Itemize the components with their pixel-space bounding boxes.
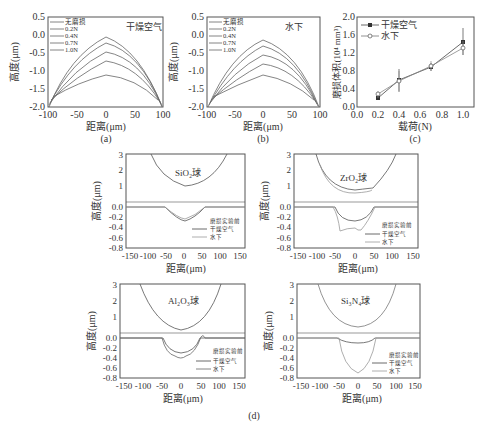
- svg-text:1.0N: 1.0N: [223, 46, 236, 53]
- svg-text:100: 100: [156, 109, 171, 120]
- svg-text:-0.6: -0.6: [103, 363, 118, 373]
- profile-curves: [294, 154, 418, 231]
- panel-b: 0.5 0.0 -0.5 -1.0 -1.5 -2.0 -100 -50 0 5…: [167, 11, 328, 145]
- svg-text:0.0: 0.0: [283, 333, 295, 343]
- x-axis-label: 距离(μm): [166, 262, 206, 275]
- legend: 干燥空气 水下: [361, 19, 417, 41]
- svg-text:干燥空气: 干燥空气: [210, 225, 234, 233]
- svg-text:2: 2: [290, 296, 295, 306]
- svg-text:-50: -50: [333, 381, 345, 391]
- svg-text:0.7N: 0.7N: [65, 39, 78, 46]
- svg-text:磨损实验前: 磨损实验前: [382, 221, 412, 229]
- svg-text:1: 1: [113, 312, 118, 322]
- svg-text:-0.6: -0.6: [277, 233, 292, 243]
- condition-annotation: 水下: [285, 21, 303, 32]
- svg-text:水下: 水下: [213, 365, 225, 373]
- svg-text:0: 0: [261, 109, 266, 120]
- svg-text:水下: 水下: [381, 30, 399, 41]
- svg-text:100: 100: [213, 251, 227, 261]
- panel-a: 0.5 0.0 -0.5 -1.0 -1.5 -2.0 -100 -50 0 5…: [8, 11, 171, 145]
- svg-text:0.4: 0.4: [393, 109, 406, 120]
- svg-text:磨损实验前: 磨损实验前: [210, 217, 240, 225]
- x-axis-label: 距离(μm): [243, 120, 283, 133]
- svg-text:0.8: 0.8: [436, 109, 449, 120]
- svg-text:0: 0: [353, 251, 358, 261]
- panel-d-sio2: 3 2 1 0.0 -0.2 -0.4 -0.6 -0.8 -150 -100 …: [90, 150, 247, 275]
- svg-text:干燥空气: 干燥空气: [213, 357, 237, 365]
- svg-text:0.5: 0.5: [33, 11, 46, 22]
- svg-text:-0.2: -0.2: [109, 212, 123, 222]
- svg-text:-1.0: -1.0: [188, 65, 204, 76]
- panel-label-d: (d): [248, 410, 260, 422]
- plot-frame: [357, 17, 474, 107]
- svg-text:-150: -150: [293, 381, 310, 391]
- svg-text:2.0: 2.0: [343, 11, 356, 22]
- svg-text:-50: -50: [329, 251, 341, 261]
- panel-d-zro2: 3 2 1 0.0 -0.2 -0.4 -0.6 -0.8 -150 -100 …: [258, 150, 420, 275]
- svg-text:2: 2: [287, 165, 292, 175]
- svg-text:50: 50: [287, 109, 297, 120]
- panel-label-c: (c): [409, 133, 420, 145]
- svg-text:3: 3: [119, 150, 124, 160]
- svg-text:-100: -100: [140, 251, 157, 261]
- svg-text:-0.6: -0.6: [280, 363, 295, 373]
- figure: 0.5 0.0 -0.5 -1.0 -1.5 -2.0 -100 -50 0 5…: [0, 0, 490, 433]
- svg-text:100: 100: [389, 381, 403, 391]
- svg-text:1.0N: 1.0N: [65, 46, 78, 53]
- svg-text:-100: -100: [135, 381, 152, 391]
- condition-annotation: 干燥空气: [126, 21, 162, 32]
- svg-text:-0.2: -0.2: [103, 343, 117, 353]
- svg-text:150: 150: [406, 251, 420, 261]
- svg-text:0: 0: [182, 251, 187, 261]
- svg-text:3: 3: [287, 150, 292, 160]
- ball-annotation: SiO₂球: [175, 167, 201, 178]
- svg-text:干燥空气: 干燥空气: [381, 19, 417, 30]
- svg-text:-0.5: -0.5: [29, 47, 45, 58]
- x-axis-label: 距离(μm): [163, 392, 203, 405]
- svg-text:磨损实验前: 磨损实验前: [389, 351, 419, 359]
- svg-text:100: 100: [313, 109, 328, 120]
- svg-text:1.2: 1.2: [343, 47, 356, 58]
- y-axis-label: 高度(μm): [262, 311, 275, 351]
- legend: 磨损实验前 干燥空气 水下: [196, 347, 243, 373]
- svg-text:-1.5: -1.5: [188, 83, 204, 94]
- y-axis-label: 高度(μm): [90, 181, 103, 221]
- svg-text:2: 2: [113, 296, 118, 306]
- svg-text:0.2N: 0.2N: [65, 25, 78, 32]
- svg-text:-50: -50: [70, 109, 83, 120]
- svg-text:干燥空气: 干燥空气: [389, 359, 413, 367]
- svg-text:-0.4: -0.4: [280, 353, 295, 363]
- x-axis-label: 载荷(N): [398, 121, 432, 133]
- svg-text:50: 50: [370, 251, 380, 261]
- svg-text:0.0: 0.0: [280, 202, 292, 212]
- svg-text:水下: 水下: [210, 233, 222, 241]
- svg-text:-0.2: -0.2: [277, 212, 291, 222]
- x-axis-label: 距离(μm): [338, 262, 378, 275]
- svg-text:100: 100: [385, 251, 399, 261]
- legend: 无磨损 0.2N 0.4N 0.7N 1.0N: [50, 17, 86, 53]
- svg-text:1.0: 1.0: [457, 109, 470, 120]
- svg-text:0: 0: [179, 381, 184, 391]
- svg-text:0.0: 0.0: [351, 109, 364, 120]
- svg-text:-50: -50: [160, 251, 172, 261]
- panel-label-a: (a): [100, 133, 111, 145]
- panel-d-si3n4: 3 2 1 0.0 -0.2 -0.4 -0.6 -0.8 -150 -100 …: [262, 280, 422, 405]
- svg-text:-0.6: -0.6: [109, 233, 124, 243]
- svg-text:0: 0: [356, 381, 361, 391]
- svg-text:-100: -100: [309, 251, 326, 261]
- legend: 磨损实验前 干燥空气 水下: [365, 221, 412, 246]
- svg-text:50: 50: [198, 251, 208, 261]
- svg-text:3: 3: [290, 280, 295, 290]
- ball-annotation: ZrO₂球: [340, 172, 367, 183]
- y-axis-label: 磨损体积(10⁴ mm³): [331, 25, 342, 98]
- svg-text:100: 100: [212, 381, 226, 391]
- y-axis-label: 高度(μm): [258, 181, 271, 221]
- x-axis-label: 距离(μm): [342, 392, 382, 405]
- profile-curves: [126, 154, 245, 221]
- svg-text:50: 50: [197, 381, 207, 391]
- svg-text:0.0: 0.0: [112, 202, 124, 212]
- svg-text:2: 2: [119, 165, 124, 175]
- svg-text:-1.0: -1.0: [29, 65, 45, 76]
- svg-text:干燥空气: 干燥空气: [382, 230, 406, 238]
- svg-text:3: 3: [113, 280, 118, 290]
